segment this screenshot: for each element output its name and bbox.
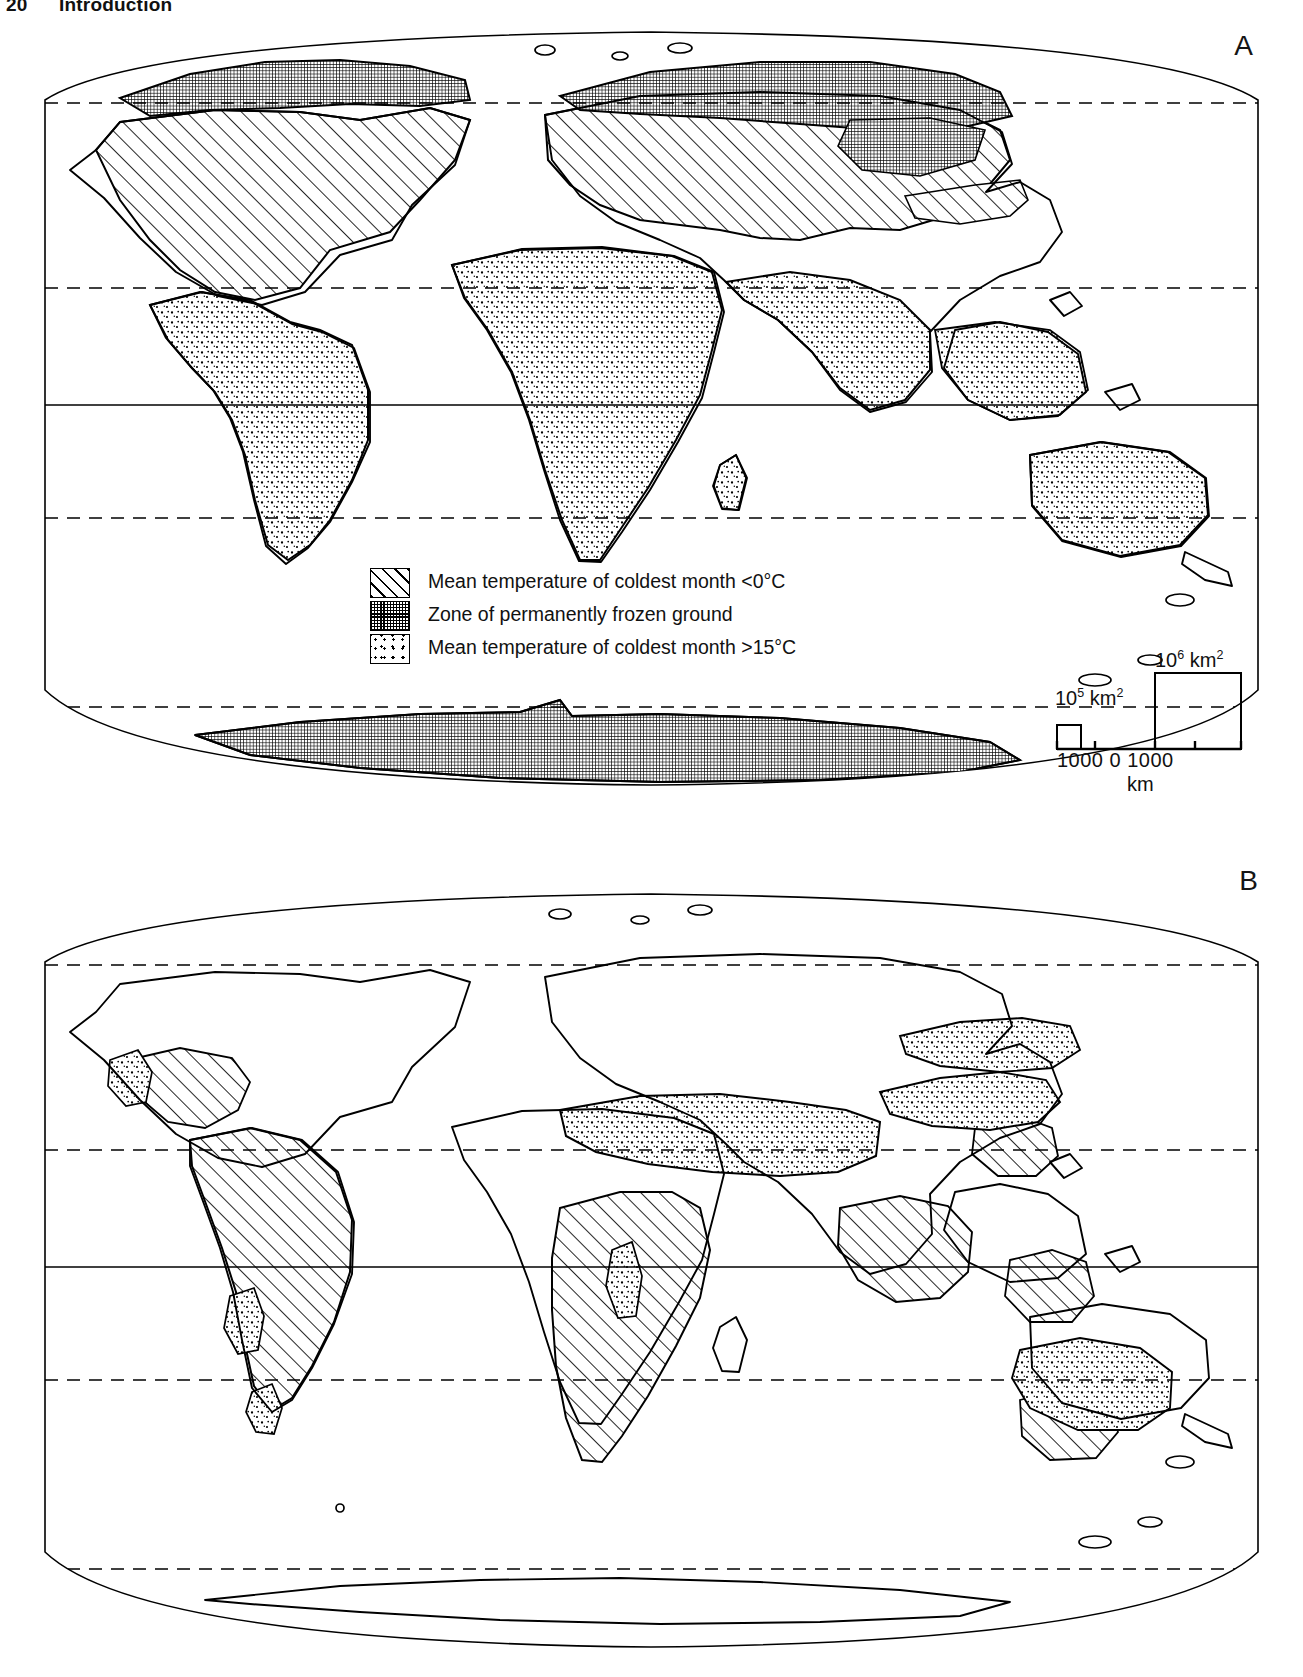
area-label-small: 105 km2 [1055,687,1123,710]
hatch-swatch-icon [370,568,410,598]
map-panel-a: A [0,0,1303,810]
legend-item: Zone of permanently frozen ground [370,601,796,631]
legend-label: Mean temperature of coldest month <0°C [428,568,785,593]
scale-unit-label: km [1127,773,1154,796]
map-panel-b: B [0,810,1303,1677]
scale-block-a: 106 km2 105 km2 1000 0 1000 km [1035,645,1285,795]
legend-label: Mean temperature of coldest month >15°C [428,634,796,659]
legend-item: Mean temperature of coldest month <0°C [370,568,796,598]
scale-ticks-label: 1000 0 1000 [1057,749,1174,772]
world-map-b [0,810,1303,1677]
legend-a: Mean temperature of coldest month <0°C Z… [370,568,796,667]
grid-swatch-icon [370,601,410,631]
legend-label: Zone of permanently frozen ground [428,601,733,626]
area-label-large: 106 km2 [1155,649,1223,672]
stipple-swatch-icon [370,634,410,664]
legend-item: Mean temperature of coldest month >15°C [370,634,796,664]
